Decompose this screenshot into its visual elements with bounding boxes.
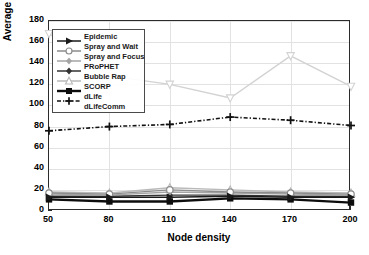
y-tick-label: 80: [0, 121, 44, 130]
x-tick-label: 170: [270, 214, 310, 224]
legend-item-bubble-rap[interactable]: Bubble Rap: [56, 72, 141, 82]
legend-symbol-icon: [56, 72, 82, 82]
data-point-marker: [287, 53, 294, 60]
y-tick-label: 180: [0, 15, 44, 24]
x-tick-label: 200: [330, 214, 369, 224]
series-dlife: [45, 113, 355, 135]
data-point-marker: [45, 127, 53, 135]
legend-item-epidemic[interactable]: Epidemic: [56, 32, 141, 42]
legend-label: Bubble Rap: [82, 72, 126, 82]
data-point-marker: [347, 122, 355, 130]
y-tick-label: 60: [0, 142, 44, 151]
y-tick-label: 160: [0, 36, 44, 45]
legend-item-spray-and-focus[interactable]: Spray and Focus: [56, 52, 141, 62]
legend-symbol-icon: [56, 32, 82, 42]
data-point-marker: [167, 187, 173, 193]
legend-item-prophet[interactable]: PRoPHET: [56, 62, 141, 72]
legend-label: Spray and Wait: [82, 42, 138, 52]
y-tick-label: 140: [0, 57, 44, 66]
y-tick-label: 120: [0, 78, 44, 87]
legend-item-dlife[interactable]: dLife: [56, 92, 141, 102]
legend[interactable]: EpidemicSpray and WaitSpray and FocusPRo…: [52, 29, 145, 113]
legend-label: Spray and Focus: [82, 52, 144, 62]
y-tick-label: 100: [0, 99, 44, 108]
data-point-marker: [347, 83, 354, 90]
x-axis-label: Node density: [48, 232, 350, 243]
y-tick-label: 20: [0, 184, 44, 193]
figure: Average Latency, min 0204060801001201401…: [0, 0, 369, 255]
legend-item-spray-and-wait[interactable]: Spray and Wait: [56, 42, 141, 52]
x-tick-label: 80: [88, 214, 128, 224]
data-point-marker: [226, 113, 234, 121]
legend-label: SCORP: [82, 82, 111, 92]
y-tick-label: 40: [0, 163, 44, 172]
x-tick-label: 110: [149, 214, 189, 224]
legend-line-icon: [56, 106, 82, 116]
x-tick-label: 140: [209, 214, 249, 224]
legend-symbol-icon: [56, 62, 82, 72]
legend-symbol-icon: [56, 102, 82, 112]
legend-label: Epidemic: [82, 32, 117, 42]
legend-label: dLife: [82, 92, 102, 102]
legend-label: PRoPHET: [82, 62, 119, 72]
legend-symbol-icon: [56, 82, 82, 92]
legend-item-scorp[interactable]: SCORP: [56, 82, 141, 92]
data-point-marker: [287, 116, 295, 124]
y-tick-label: 0: [0, 205, 44, 214]
legend-label: dLifeComm: [82, 102, 125, 112]
data-point-marker: [166, 120, 174, 128]
data-point-marker: [227, 95, 234, 102]
legend-symbol-icon: [56, 92, 82, 102]
legend-item-dlifecomm[interactable]: dLifeComm: [56, 102, 141, 112]
legend-symbol-icon: [56, 42, 82, 52]
data-point-marker: [105, 123, 113, 131]
x-tick-label: 50: [28, 214, 68, 224]
legend-symbol-icon: [56, 52, 82, 62]
